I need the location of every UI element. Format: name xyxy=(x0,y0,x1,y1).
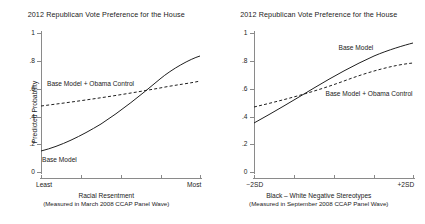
chart-panel-negative-stereotypes: 2012 Republican Vote Preference for the … xyxy=(213,0,425,224)
chart-panel-racial-resentment: 2012 Republican Vote Preference for the … xyxy=(0,0,213,224)
curve-annotation-base-model: Base Model xyxy=(42,156,77,163)
x-axis-label-sub: (Measured in September 2008 CCAP Panel W… xyxy=(213,200,425,208)
x-axis-label-main: Racial Resentment xyxy=(78,192,134,199)
x-axis-label-main: Black – White Negative Stereotypes xyxy=(266,192,371,199)
curve-base-model xyxy=(254,43,413,123)
x-axis-label: Black – White Negative Stereotypes (Meas… xyxy=(213,192,425,209)
curve-layer xyxy=(0,0,213,224)
x-axis-label-sub: (Measured in March 2008 CCAP Panel Wave) xyxy=(0,200,213,208)
curve-base-model xyxy=(41,56,200,151)
curve-annotation-base-model: Base Model xyxy=(339,44,374,51)
curve-layer xyxy=(213,0,425,224)
curve-annotation-obama-control: Base Model + Obama Control xyxy=(47,80,134,87)
figure-two-panel-chart: 2012 Republican Vote Preference for the … xyxy=(0,0,425,224)
x-axis-label: Racial Resentment (Measured in March 200… xyxy=(0,192,213,209)
curve-base-model-obama-control xyxy=(254,63,413,107)
curve-annotation-obama-control: Base Model + Obama Control xyxy=(326,90,413,97)
